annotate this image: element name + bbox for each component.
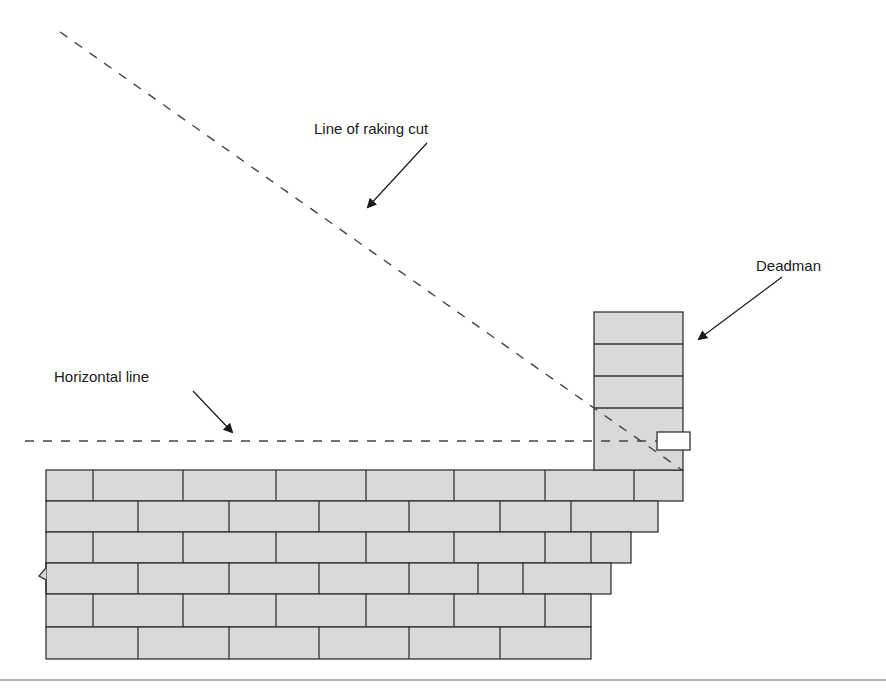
brick-course bbox=[46, 532, 631, 563]
profile-board bbox=[657, 432, 690, 450]
horizontal-arrow-icon bbox=[193, 391, 232, 432]
brick-wall bbox=[46, 470, 683, 659]
horizontal-line-label: Horizontal line bbox=[54, 369, 149, 384]
raking-cut-dashed-line bbox=[60, 32, 682, 470]
raking-cut-arrow-icon bbox=[368, 143, 427, 207]
brick-course bbox=[46, 470, 683, 501]
brick-course bbox=[46, 563, 611, 594]
brick-course bbox=[46, 594, 591, 627]
raking-back-diagram: Line of raking cut Deadman Horizontal li… bbox=[0, 0, 886, 691]
raking-cut-label: Line of raking cut bbox=[314, 121, 428, 136]
deadman-arrow-icon bbox=[699, 277, 782, 339]
callout-arrows bbox=[193, 143, 782, 432]
wall-break-mark bbox=[39, 563, 46, 594]
deadman-label: Deadman bbox=[756, 258, 821, 273]
diagram-canvas bbox=[0, 0, 886, 691]
